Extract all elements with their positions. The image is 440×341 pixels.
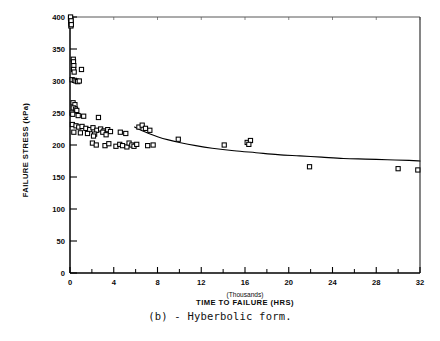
y-tick-label: 0 <box>61 269 65 278</box>
data-point-marker <box>416 168 420 172</box>
x-tick-label: 24 <box>328 278 337 287</box>
data-point-marker <box>108 129 112 133</box>
data-point-marker <box>118 130 122 134</box>
data-point-marker <box>135 142 139 146</box>
data-point-marker <box>76 113 80 117</box>
data-point-marker <box>124 131 128 135</box>
data-point-marker <box>148 128 152 132</box>
data-point-marker <box>71 112 75 116</box>
x-tick-label: 0 <box>68 278 72 287</box>
data-point-marker <box>79 67 83 71</box>
data-point-marker <box>78 131 82 135</box>
data-point-marker <box>396 167 400 171</box>
data-point-marker <box>104 133 108 137</box>
y-tick-label: 300 <box>52 77 65 86</box>
x-axis-title: TIME TO FAILURE (HRS) <box>196 298 294 307</box>
y-tick-label: 50 <box>57 237 65 246</box>
y-tick-label: 350 <box>52 45 65 54</box>
data-point-marker <box>151 143 155 147</box>
data-point-marker <box>176 137 180 141</box>
y-tick-label: 100 <box>52 205 65 214</box>
x-tick-label: 8 <box>155 278 159 287</box>
data-point-marker <box>107 142 111 146</box>
data-point-marker <box>143 126 147 130</box>
data-point-marker <box>82 114 86 118</box>
data-point-marker <box>77 79 81 83</box>
data-point-marker <box>247 142 251 146</box>
data-point-marker <box>85 131 89 135</box>
y-tick-label: 150 <box>52 173 65 182</box>
y-tick-label: 400 <box>52 13 65 22</box>
y-tick-label: 250 <box>52 109 65 118</box>
failure-stress-scatter-chart: 048121620242832 050100150200250300350400… <box>0 0 440 341</box>
data-point-marker <box>96 115 100 119</box>
data-point-marker <box>72 130 76 134</box>
data-point-marker <box>72 70 76 74</box>
x-tick-label: 12 <box>197 278 205 287</box>
x-tick-label: 32 <box>416 278 424 287</box>
data-point-marker <box>120 144 124 148</box>
y-axis-title: FAILURE STRESS (kPa) <box>21 103 30 198</box>
data-point-marker <box>222 143 226 147</box>
data-point-marker <box>146 144 150 148</box>
chart-background <box>0 0 440 341</box>
data-point-marker <box>307 165 311 169</box>
data-point-marker <box>94 143 98 147</box>
x-tick-label: 28 <box>372 278 380 287</box>
data-point-marker <box>69 23 73 27</box>
data-point-marker <box>91 134 95 138</box>
y-tick-label: 200 <box>52 141 65 150</box>
figure-container: 048121620242832 050100150200250300350400… <box>0 0 440 341</box>
x-tick-label: 20 <box>285 278 293 287</box>
x-tick-label: 16 <box>241 278 249 287</box>
